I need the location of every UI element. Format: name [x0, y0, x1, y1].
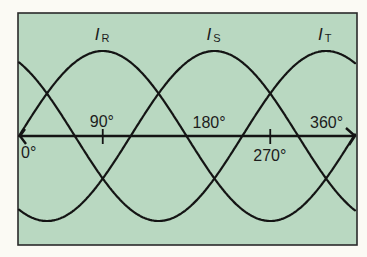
tick-label-180: 180° — [193, 114, 226, 131]
three-phase-diagram: 0°90°180°270°360° IRISIT — [0, 0, 367, 257]
tick-label-90: 90° — [90, 113, 114, 130]
tick-label-0: 0° — [21, 144, 36, 161]
tick-label-270: 270° — [253, 147, 286, 164]
tick-label-360: 360° — [310, 114, 343, 131]
